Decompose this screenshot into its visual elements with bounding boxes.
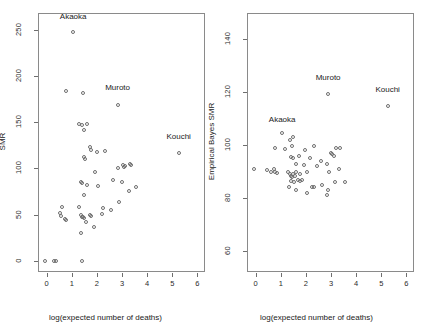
data-point xyxy=(83,157,87,161)
data-point xyxy=(127,189,131,193)
data-point xyxy=(305,170,309,174)
x-tick-label: 5 xyxy=(170,279,174,288)
plot-area-right: AkaokaMurotoKouchi xyxy=(247,13,414,272)
data-point xyxy=(290,144,294,148)
data-point xyxy=(89,148,93,152)
x-tick-label: 5 xyxy=(379,279,383,288)
data-point xyxy=(302,163,306,167)
y-tick-mark xyxy=(34,76,38,77)
data-point xyxy=(77,205,81,209)
x-tick-mark xyxy=(406,273,407,277)
data-point xyxy=(315,164,319,168)
x-tick-mark xyxy=(47,273,48,277)
x-tick-label: 3 xyxy=(120,279,124,288)
data-point xyxy=(103,149,107,153)
panel-eb-smr: AkaokaMurotoKouchi 6080100120140 0123456… xyxy=(211,0,422,328)
data-point xyxy=(303,148,307,152)
data-point xyxy=(300,178,304,182)
y-tick-mark xyxy=(243,39,247,40)
y-tick-mark xyxy=(34,122,38,123)
y-tick-label: 80 xyxy=(223,186,232,210)
data-point xyxy=(319,159,323,163)
y-tick-label: 120 xyxy=(223,80,232,104)
data-point xyxy=(134,185,138,189)
y-axis-title-left: SMR xyxy=(0,12,7,271)
y-tick-label: 100 xyxy=(223,133,232,157)
y-tick-mark xyxy=(243,145,247,146)
data-point xyxy=(43,259,47,263)
data-point xyxy=(312,144,316,148)
x-tick-mark xyxy=(331,273,332,277)
x-tick-label: 3 xyxy=(329,279,333,288)
data-point xyxy=(89,214,93,218)
annotation-label-akaoka: Akaoka xyxy=(269,115,296,124)
x-tick-mark xyxy=(306,273,307,277)
y-tick-label: 0 xyxy=(14,248,23,272)
y-tick-mark xyxy=(34,215,38,216)
data-point xyxy=(92,225,96,229)
data-point xyxy=(96,184,100,188)
data-point xyxy=(82,128,86,132)
data-point xyxy=(54,259,58,263)
x-tick-label: 1 xyxy=(70,279,74,288)
data-point xyxy=(297,154,301,158)
x-tick-label: 0 xyxy=(254,279,258,288)
y-tick-mark xyxy=(243,92,247,93)
data-point xyxy=(60,205,64,209)
data-point xyxy=(275,171,279,175)
data-point xyxy=(298,172,302,176)
data-point xyxy=(64,89,68,93)
x-tick-mark xyxy=(147,273,148,277)
data-point xyxy=(116,103,120,107)
annotation-label-akaoka: Akaoka xyxy=(60,12,87,21)
data-point xyxy=(283,147,287,151)
y-tick-label: 100 xyxy=(14,156,23,180)
data-point xyxy=(325,162,329,166)
data-point xyxy=(273,146,277,150)
data-point xyxy=(326,92,330,96)
y-tick-mark xyxy=(34,30,38,31)
y-tick-mark xyxy=(34,168,38,169)
data-point xyxy=(343,180,347,184)
y-tick-label: 150 xyxy=(14,110,23,134)
x-tick-label: 0 xyxy=(45,279,49,288)
data-point xyxy=(111,178,115,182)
data-point xyxy=(327,170,331,174)
data-point xyxy=(386,104,390,108)
data-point xyxy=(116,166,120,170)
data-point xyxy=(117,200,121,204)
y-tick-label: 50 xyxy=(14,202,23,226)
data-point xyxy=(294,188,298,192)
data-point xyxy=(326,188,330,192)
x-tick-mark xyxy=(172,273,173,277)
data-point xyxy=(109,208,113,212)
data-point xyxy=(338,146,342,150)
data-point xyxy=(120,180,124,184)
data-point xyxy=(64,218,68,222)
data-point xyxy=(79,231,83,235)
y-tick-label: 140 xyxy=(223,27,232,51)
data-point xyxy=(82,193,86,197)
data-point xyxy=(100,212,104,216)
data-point xyxy=(332,154,336,158)
x-tick-label: 1 xyxy=(279,279,283,288)
data-point xyxy=(123,164,127,168)
x-tick-label: 2 xyxy=(304,279,308,288)
data-point xyxy=(333,180,337,184)
y-tick-label: 250 xyxy=(14,17,23,41)
x-tick-label: 6 xyxy=(195,279,199,288)
y-tick-label: 200 xyxy=(14,63,23,87)
data-point xyxy=(287,185,291,189)
x-tick-mark xyxy=(356,273,357,277)
data-point xyxy=(80,259,84,263)
data-point xyxy=(101,206,105,210)
y-tick-mark xyxy=(34,261,38,262)
data-point xyxy=(71,30,75,34)
x-axis-title-left: log(expected number of deaths) xyxy=(49,313,162,322)
data-point xyxy=(305,191,309,195)
x-tick-mark xyxy=(72,273,73,277)
data-point xyxy=(93,170,97,174)
data-point xyxy=(177,151,181,155)
data-point xyxy=(85,183,89,187)
data-point xyxy=(95,150,99,154)
